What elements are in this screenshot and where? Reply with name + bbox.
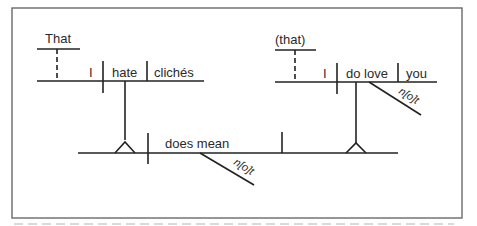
subject-label: I bbox=[89, 65, 93, 80]
verb-label: do love bbox=[346, 66, 388, 81]
object-label: you bbox=[406, 66, 427, 81]
subject-label: I bbox=[323, 66, 327, 81]
diagram-frame bbox=[12, 8, 462, 218]
sentence-diagram: That I hate clichés (that) I do love you… bbox=[0, 0, 477, 226]
main-clause: does mean n[o]t bbox=[78, 132, 398, 185]
verb-label: does mean bbox=[165, 136, 229, 151]
right-clause: (that) I do love you n[o]t bbox=[275, 32, 437, 153]
conjunction-label: (that) bbox=[275, 32, 305, 47]
verb-label: hate bbox=[112, 65, 137, 80]
clipped-caption bbox=[14, 220, 454, 226]
pedestal-fork bbox=[115, 142, 135, 153]
modifier-label: n[o]t bbox=[397, 85, 422, 107]
object-label: clichés bbox=[154, 65, 194, 80]
left-clause: That I hate clichés bbox=[37, 31, 204, 153]
pedestal-fork bbox=[346, 143, 366, 153]
conjunction-label: That bbox=[45, 31, 71, 46]
